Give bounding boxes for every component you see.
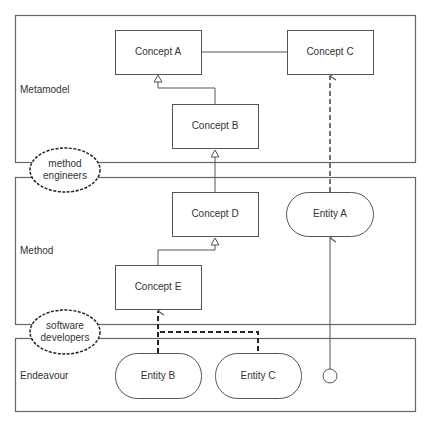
concept-e-label: Concept E xyxy=(135,281,182,292)
hollow-triangle-icon xyxy=(154,75,162,82)
actor-method-engineers[interactable]: method engineers xyxy=(30,148,100,192)
actor-label-line2: developers xyxy=(41,332,90,343)
actor-software-developers[interactable]: software developers xyxy=(30,310,100,354)
concept-e[interactable]: Concept E xyxy=(116,266,202,310)
concept-a[interactable]: Concept A xyxy=(116,31,202,75)
generalization-e-to-d xyxy=(158,238,219,265)
entity-c[interactable]: Entity C xyxy=(216,354,302,399)
hollow-triangle-icon xyxy=(211,238,219,245)
concept-a-label: Concept A xyxy=(135,46,181,57)
generalization-b-to-a xyxy=(154,75,215,104)
entity-a-label: Entity A xyxy=(313,208,347,219)
instance-of-entities-b-c-concept-e xyxy=(158,311,258,353)
generalization-d-to-b xyxy=(211,150,219,192)
concept-b[interactable]: Concept B xyxy=(173,105,259,149)
entity-c-label: Entity C xyxy=(240,370,275,381)
concept-b-label: Concept B xyxy=(192,120,239,131)
entity-b-label: Entity B xyxy=(141,370,176,381)
actor-label-line1: method xyxy=(48,158,81,169)
layer-label-endeavour: Endeavour xyxy=(20,370,69,381)
actor-label-line1: software xyxy=(46,320,84,331)
concept-d-label: Concept D xyxy=(191,208,238,219)
hollow-triangle-icon xyxy=(211,150,219,157)
metamodel-layers-diagram: Metamodel Method Endeavour Concept A C xyxy=(0,0,428,426)
layer-label-metamodel: Metamodel xyxy=(20,84,69,95)
concept-d[interactable]: Concept D xyxy=(173,193,259,237)
entity-a[interactable]: Entity A xyxy=(287,193,374,237)
layer-label-method: Method xyxy=(20,245,53,256)
concept-c[interactable]: Concept C xyxy=(288,31,374,75)
entity-b[interactable]: Entity B xyxy=(116,354,202,399)
concept-c-label: Concept C xyxy=(306,46,353,57)
endeavour-node-circle[interactable] xyxy=(323,369,337,383)
actor-label-line2: engineers xyxy=(43,170,87,181)
